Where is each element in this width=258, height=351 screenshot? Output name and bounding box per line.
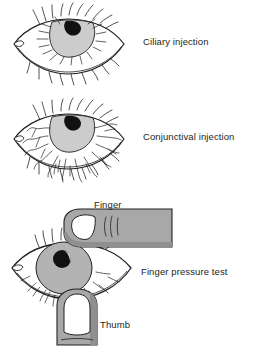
thumb-shading [90, 292, 97, 345]
thumb [57, 289, 97, 345]
fingernail [72, 215, 96, 240]
label-finger: Finger [94, 199, 122, 210]
iris-pressure [36, 242, 92, 294]
medical-illustration: Ciliary injection [0, 0, 258, 351]
label-finger-pressure-test: Finger pressure test [141, 266, 228, 277]
thumbnail [64, 294, 90, 335]
index-finger [64, 209, 172, 247]
pupil-pressure [53, 250, 71, 268]
label-conjunctival-injection: Conjunctival injection [143, 131, 234, 142]
label-ciliary-injection: Ciliary injection [143, 36, 209, 47]
label-thumb: Thumb [100, 319, 130, 330]
